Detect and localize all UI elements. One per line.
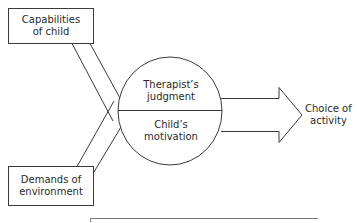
output-arrow bbox=[221, 88, 302, 143]
therapist-judgment-line1: Therapist’s bbox=[124, 79, 218, 91]
child-motivation-line1: Child’s bbox=[124, 119, 218, 131]
bottom-rule bbox=[91, 219, 319, 223]
therapist-judgment-label: Therapist’s judgment bbox=[124, 79, 218, 103]
upper-band-left-edge bbox=[72, 44, 113, 122]
capabilities-line2: of child bbox=[8, 26, 94, 38]
capabilities-line1: Capabilities bbox=[8, 14, 94, 26]
demands-line1: Demands of bbox=[8, 174, 94, 186]
choice-line1: Choice of bbox=[305, 103, 357, 115]
lower-band-left-edge bbox=[77, 101, 114, 167]
therapist-judgment-line2: judgment bbox=[124, 91, 218, 103]
demands-label: Demands of environment bbox=[8, 174, 94, 198]
demands-line2: environment bbox=[8, 186, 94, 198]
child-motivation-line2: motivation bbox=[124, 131, 218, 143]
choice-of-activity-label: Choice of activity bbox=[305, 103, 357, 127]
lower-band-right-edge bbox=[94, 127, 121, 172]
capabilities-label: Capabilities of child bbox=[8, 14, 94, 38]
upper-band-right-edge bbox=[90, 44, 121, 101]
choice-line2: activity bbox=[305, 115, 357, 127]
child-motivation-label: Child’s motivation bbox=[124, 119, 218, 143]
